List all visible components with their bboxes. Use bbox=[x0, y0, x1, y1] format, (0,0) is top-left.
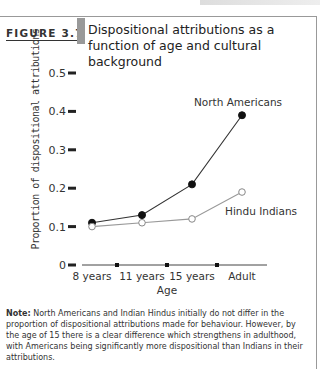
y-tick-label: 0.3 bbox=[49, 144, 67, 157]
note-text: North Americans and Indian Hindus initia… bbox=[6, 309, 303, 362]
line-chart: 00.10.20.30.40.58 years11 years15 yearsA… bbox=[0, 0, 326, 300]
data-point-marker bbox=[189, 216, 196, 223]
y-tick-mark bbox=[68, 72, 76, 75]
data-point-marker bbox=[189, 181, 196, 188]
x-tick-label: 15 years bbox=[169, 270, 215, 282]
y-tick-mark bbox=[68, 225, 76, 228]
note-prefix: Note: bbox=[6, 309, 31, 318]
data-point-marker bbox=[239, 112, 246, 119]
y-tick-mark bbox=[68, 264, 76, 267]
y-tick-mark bbox=[68, 187, 76, 190]
data-point-marker bbox=[89, 223, 96, 230]
data-point-marker bbox=[139, 212, 146, 219]
series-line-hindu-indians bbox=[92, 192, 242, 227]
data-point-marker bbox=[139, 219, 146, 226]
y-tick-label: 0.1 bbox=[49, 221, 67, 234]
x-axis-title: Age bbox=[157, 284, 177, 296]
x-tick-mark bbox=[115, 263, 119, 267]
y-tick-mark bbox=[68, 148, 76, 151]
x-tick-mark bbox=[165, 263, 169, 267]
x-tick-label: Adult bbox=[228, 270, 255, 282]
x-tick-label: 11 years bbox=[119, 270, 165, 282]
series-label-north-americans: North Americans bbox=[194, 96, 282, 108]
y-tick-label: 0.5 bbox=[49, 67, 67, 80]
x-tick-label: 8 years bbox=[73, 270, 112, 282]
series-label-hindu-indians: Hindu Indians bbox=[225, 205, 297, 217]
y-tick-label: 0.4 bbox=[49, 105, 67, 118]
y-tick-label: 0.2 bbox=[49, 182, 67, 195]
x-tick-mark bbox=[215, 263, 219, 267]
y-tick-mark bbox=[68, 110, 76, 113]
figure-note: Note: North Americans and Indian Hindus … bbox=[6, 308, 311, 363]
data-point-marker bbox=[239, 189, 246, 196]
y-tick-label: 0 bbox=[59, 259, 66, 272]
series-line-north-americans bbox=[92, 115, 242, 223]
